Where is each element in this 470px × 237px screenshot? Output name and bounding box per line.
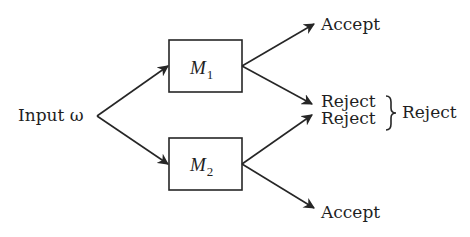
- edge-input-to-m2: [97, 116, 168, 164]
- diagram-svg: Input ω M1 M2 Accept Reject Reject Accep…: [0, 0, 470, 237]
- input-label: Input ω: [18, 105, 84, 125]
- input-edges: [97, 66, 168, 164]
- m2-accept-label: Accept: [320, 202, 380, 222]
- combined-reject-label: Reject: [402, 102, 457, 122]
- output-edges: [242, 24, 314, 208]
- brace-icon: [386, 96, 396, 130]
- edge-m2-to-reject: [242, 115, 312, 164]
- edge-m2-to-accept: [242, 164, 314, 208]
- m1-accept-label: Accept: [320, 14, 380, 34]
- edge-m1-to-accept: [242, 24, 314, 66]
- edge-input-to-m1: [97, 66, 168, 116]
- machine-m2: M2: [169, 138, 242, 190]
- edge-m1-to-reject: [242, 66, 312, 104]
- m2-reject-label: Reject: [321, 108, 376, 128]
- machine-m1: M1: [169, 40, 242, 92]
- diagram-canvas: Input ω M1 M2 Accept Reject Reject Accep…: [0, 0, 470, 237]
